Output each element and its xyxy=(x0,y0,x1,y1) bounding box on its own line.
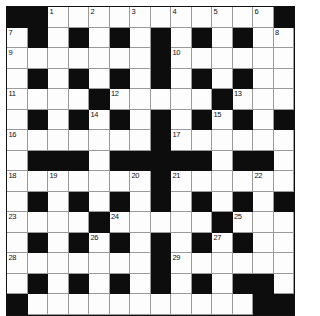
crossword-open-cell[interactable] xyxy=(212,294,233,315)
crossword-open-cell[interactable] xyxy=(130,89,151,110)
crossword-open-cell[interactable] xyxy=(274,151,295,172)
crossword-open-cell[interactable] xyxy=(233,294,254,315)
crossword-open-cell[interactable] xyxy=(28,89,49,110)
crossword-open-cell[interactable] xyxy=(28,171,49,192)
crossword-open-cell[interactable] xyxy=(212,69,233,90)
crossword-open-cell[interactable]: 23 xyxy=(7,212,28,233)
crossword-open-cell[interactable] xyxy=(274,212,295,233)
crossword-open-cell[interactable]: 3 xyxy=(130,7,151,28)
crossword-open-cell[interactable] xyxy=(192,212,213,233)
crossword-open-cell[interactable] xyxy=(192,294,213,315)
crossword-open-cell[interactable] xyxy=(48,253,69,274)
crossword-open-cell[interactable]: 24 xyxy=(110,212,131,233)
crossword-open-cell[interactable] xyxy=(192,253,213,274)
crossword-open-cell[interactable] xyxy=(130,192,151,213)
crossword-open-cell[interactable] xyxy=(233,130,254,151)
crossword-open-cell[interactable] xyxy=(212,274,233,295)
crossword-open-cell[interactable] xyxy=(69,253,90,274)
crossword-open-cell[interactable] xyxy=(110,7,131,28)
crossword-open-cell[interactable] xyxy=(28,253,49,274)
crossword-open-cell[interactable]: 17 xyxy=(171,130,192,151)
crossword-open-cell[interactable] xyxy=(110,130,131,151)
crossword-open-cell[interactable] xyxy=(212,192,233,213)
crossword-open-cell[interactable] xyxy=(233,253,254,274)
crossword-open-cell[interactable] xyxy=(110,294,131,315)
crossword-open-cell[interactable]: 10 xyxy=(171,48,192,69)
crossword-open-cell[interactable] xyxy=(233,7,254,28)
crossword-open-cell[interactable] xyxy=(151,7,172,28)
crossword-open-cell[interactable]: 27 xyxy=(212,233,233,254)
crossword-open-cell[interactable]: 15 xyxy=(212,110,233,131)
crossword-open-cell[interactable] xyxy=(7,192,28,213)
crossword-open-cell[interactable]: 8 xyxy=(274,28,295,49)
crossword-open-cell[interactable] xyxy=(48,233,69,254)
crossword-open-cell[interactable] xyxy=(130,294,151,315)
crossword-open-cell[interactable]: 19 xyxy=(48,171,69,192)
crossword-open-cell[interactable] xyxy=(130,69,151,90)
crossword-open-cell[interactable] xyxy=(192,7,213,28)
crossword-open-cell[interactable] xyxy=(69,212,90,233)
crossword-open-cell[interactable] xyxy=(171,110,192,131)
crossword-open-cell[interactable] xyxy=(69,89,90,110)
crossword-open-cell[interactable] xyxy=(48,192,69,213)
crossword-open-cell[interactable] xyxy=(171,212,192,233)
crossword-open-cell[interactable]: 21 xyxy=(171,171,192,192)
crossword-open-cell[interactable] xyxy=(48,274,69,295)
crossword-open-cell[interactable] xyxy=(212,253,233,274)
crossword-open-cell[interactable]: 16 xyxy=(7,130,28,151)
crossword-open-cell[interactable] xyxy=(253,48,274,69)
crossword-open-cell[interactable] xyxy=(212,28,233,49)
crossword-open-cell[interactable] xyxy=(89,192,110,213)
crossword-open-cell[interactable] xyxy=(89,130,110,151)
crossword-open-cell[interactable]: 29 xyxy=(171,253,192,274)
crossword-open-cell[interactable] xyxy=(28,212,49,233)
crossword-open-cell[interactable] xyxy=(171,294,192,315)
crossword-open-cell[interactable] xyxy=(192,171,213,192)
crossword-open-cell[interactable] xyxy=(130,233,151,254)
crossword-open-cell[interactable] xyxy=(48,89,69,110)
crossword-open-cell[interactable] xyxy=(253,192,274,213)
crossword-open-cell[interactable] xyxy=(89,171,110,192)
crossword-open-cell[interactable] xyxy=(89,28,110,49)
crossword-open-cell[interactable] xyxy=(130,130,151,151)
crossword-open-cell[interactable] xyxy=(253,89,274,110)
crossword-open-cell[interactable] xyxy=(171,69,192,90)
crossword-open-cell[interactable] xyxy=(69,294,90,315)
crossword-open-cell[interactable] xyxy=(192,89,213,110)
crossword-open-cell[interactable] xyxy=(89,253,110,274)
crossword-open-cell[interactable] xyxy=(69,48,90,69)
crossword-open-cell[interactable] xyxy=(233,171,254,192)
crossword-open-cell[interactable] xyxy=(69,171,90,192)
crossword-open-cell[interactable] xyxy=(110,48,131,69)
crossword-open-cell[interactable] xyxy=(274,48,295,69)
crossword-open-cell[interactable] xyxy=(274,69,295,90)
crossword-open-cell[interactable]: 6 xyxy=(253,7,274,28)
crossword-open-cell[interactable] xyxy=(212,130,233,151)
crossword-open-cell[interactable]: 13 xyxy=(233,89,254,110)
crossword-open-cell[interactable] xyxy=(48,28,69,49)
crossword-open-cell[interactable] xyxy=(151,294,172,315)
crossword-open-cell[interactable] xyxy=(212,171,233,192)
crossword-open-cell[interactable] xyxy=(253,28,274,49)
crossword-open-cell[interactable]: 1 xyxy=(48,7,69,28)
crossword-open-cell[interactable] xyxy=(48,130,69,151)
crossword-open-cell[interactable] xyxy=(48,212,69,233)
crossword-open-cell[interactable] xyxy=(48,48,69,69)
crossword-open-cell[interactable] xyxy=(69,130,90,151)
crossword-open-cell[interactable] xyxy=(212,48,233,69)
crossword-open-cell[interactable] xyxy=(130,212,151,233)
crossword-open-cell[interactable] xyxy=(130,274,151,295)
crossword-open-cell[interactable] xyxy=(171,192,192,213)
crossword-open-cell[interactable] xyxy=(7,110,28,131)
crossword-open-cell[interactable] xyxy=(253,253,274,274)
crossword-open-cell[interactable] xyxy=(253,233,274,254)
crossword-open-cell[interactable] xyxy=(89,48,110,69)
crossword-open-cell[interactable] xyxy=(171,28,192,49)
crossword-open-cell[interactable]: 14 xyxy=(89,110,110,131)
crossword-open-cell[interactable]: 28 xyxy=(7,253,28,274)
crossword-open-cell[interactable] xyxy=(110,171,131,192)
crossword-open-cell[interactable] xyxy=(274,274,295,295)
crossword-open-cell[interactable]: 12 xyxy=(110,89,131,110)
crossword-open-cell[interactable] xyxy=(274,89,295,110)
crossword-open-cell[interactable] xyxy=(69,7,90,28)
